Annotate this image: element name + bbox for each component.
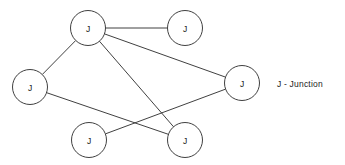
edge-layer — [42, 28, 225, 134]
junction-node-top-left-label: J — [86, 24, 90, 34]
junction-node-top-right-label: J — [183, 24, 187, 34]
junction-node-left-label: J — [28, 83, 32, 93]
edge-left-to-bottom-right — [47, 93, 169, 135]
junction-diagram: JJJJJJ J - Junction — [0, 0, 345, 165]
junction-node-right[interactable]: J — [225, 66, 260, 101]
edge-bottom-left-to-right — [105, 89, 225, 134]
junction-node-right-label: J — [240, 79, 244, 89]
edge-top-left-to-left — [42, 40, 75, 74]
junction-node-top-left[interactable]: J — [71, 11, 106, 46]
junction-node-top-right[interactable]: J — [168, 11, 203, 46]
junction-node-bottom-right-label: J — [183, 136, 187, 146]
edge-top-left-to-right — [104, 34, 225, 77]
edge-top-left-to-bottom-right — [99, 41, 173, 127]
junction-node-left[interactable]: J — [13, 70, 48, 105]
junction-node-bottom-left[interactable]: J — [72, 123, 107, 158]
junction-node-bottom-right[interactable]: J — [168, 123, 203, 158]
legend-junction-label: J - Junction — [277, 79, 323, 89]
junction-node-bottom-left-label: J — [87, 136, 91, 146]
